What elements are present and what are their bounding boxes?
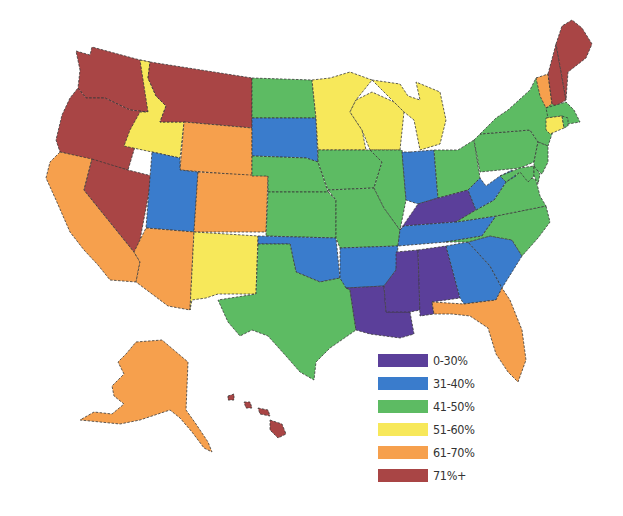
legend-item-31-40: 31-40% [378,372,518,395]
us-choropleth-map [0,0,623,516]
state-KS [266,192,336,238]
legend-label-0-30: 0-30% [433,353,468,368]
state-IA [318,150,382,190]
legend-swatch-61-70 [378,446,428,459]
state-MT [148,62,252,128]
legend-swatch-31-40 [378,377,428,390]
state-SD [252,118,318,162]
state-HI-2 [244,402,252,408]
legend-swatch-41-50 [378,400,428,413]
legend-label-61-70: 61-70% [433,445,475,460]
state-CO [194,172,268,232]
state-HI-4 [270,420,286,438]
legend-swatch-0-30 [378,354,428,367]
legend-item-61-70: 61-70% [378,441,518,464]
legend-item-51-60: 51-60% [378,418,518,441]
state-ND [252,78,316,118]
state-PA [474,130,538,172]
state-IN [402,150,438,204]
legend-item-0-30: 0-30% [378,349,518,372]
state-HI-3 [258,408,270,416]
legend-label-41-50: 41-50% [433,399,475,414]
legend-swatch-51-60 [378,423,428,436]
legend-item-41-50: 41-50% [378,395,518,418]
state-CT [546,116,564,134]
state-AZ [134,228,194,310]
legend-swatch-71-plus [378,469,428,482]
legend-item-71-plus: 71%+ [378,464,518,487]
state-HI-1 [228,394,234,400]
map-legend: 0-30% 31-40% 41-50% 51-60% 61-70% 71%+ [378,349,518,487]
legend-label-71-plus: 71%+ [433,468,466,483]
state-AK [80,340,212,452]
state-WY [180,122,252,176]
legend-label-31-40: 31-40% [433,376,475,391]
legend-label-51-60: 51-60% [433,422,475,437]
